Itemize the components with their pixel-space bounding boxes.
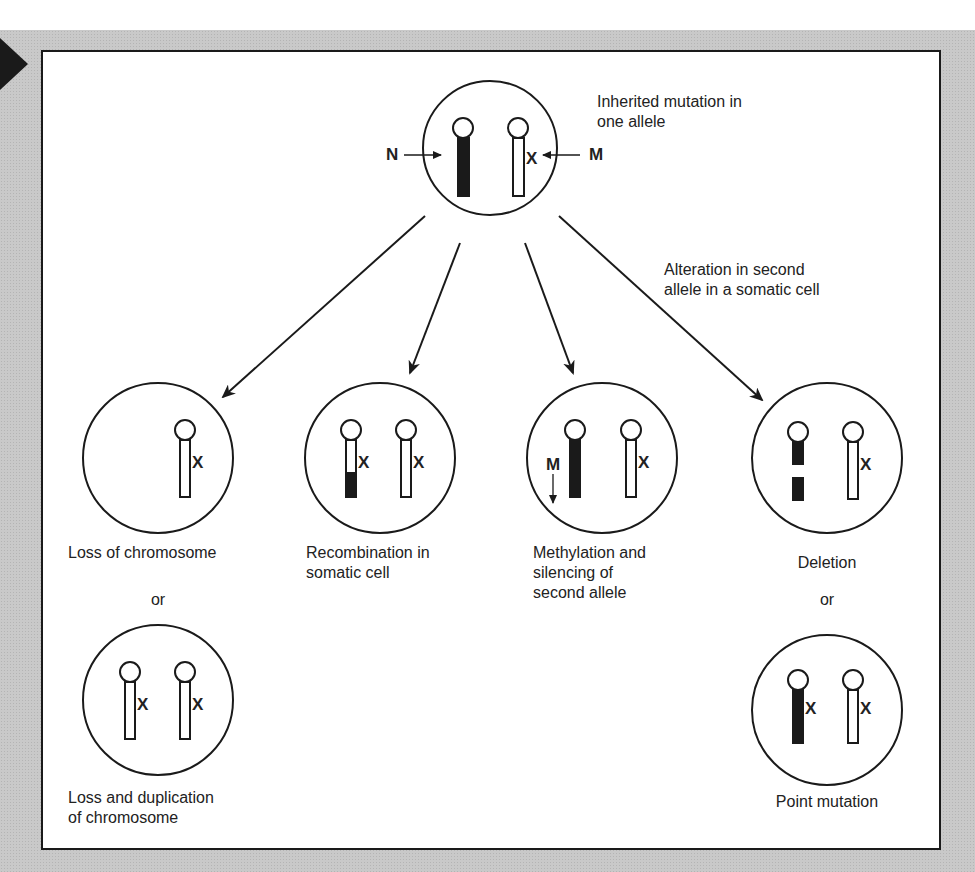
caption-deletion: Deletion xyxy=(777,553,877,573)
mutation-mark: X xyxy=(192,696,203,714)
caption-recombination-line2: somatic cell xyxy=(306,563,390,583)
caption-loss-duplication-line1: Loss and duplication xyxy=(68,788,214,808)
top-caption-line1: Inherited mutation in xyxy=(597,92,742,112)
mutation-mark: X xyxy=(638,454,649,472)
caption-methylation-line1: Methylation and xyxy=(533,543,646,563)
caption-methylation-line3: second allele xyxy=(533,583,626,603)
or-label: or xyxy=(807,590,847,610)
mutation-mark: X xyxy=(137,696,148,714)
top-caption-line2: one allele xyxy=(597,112,666,132)
mutation-mark: X xyxy=(860,456,871,474)
mutation-mark: X xyxy=(526,150,537,168)
caption-loss-duplication-line2: of chromosome xyxy=(68,808,178,828)
branch-label-line2: allele in a somatic cell xyxy=(664,280,820,300)
mutation-mark: X xyxy=(805,700,816,718)
mutant-allele-label: M xyxy=(589,146,603,164)
branch-label-line1: Alteration in second xyxy=(664,260,805,280)
mutation-mark: X xyxy=(192,454,203,472)
caption-point-mutation: Point mutation xyxy=(757,792,897,812)
caption-methylation-line2: silencing of xyxy=(533,563,613,583)
normal-allele-label: N xyxy=(386,146,398,164)
mutation-mark: X xyxy=(358,454,369,472)
mutation-mark: X xyxy=(413,454,424,472)
top-cell xyxy=(423,81,557,215)
or-label: or xyxy=(138,590,178,610)
diagram-graphics xyxy=(0,0,975,872)
caption-loss: Loss of chromosome xyxy=(68,543,217,563)
methylation-marker: M xyxy=(546,456,560,474)
mutation-mark: X xyxy=(860,700,871,718)
caption-recombination-line1: Recombination in xyxy=(306,543,430,563)
